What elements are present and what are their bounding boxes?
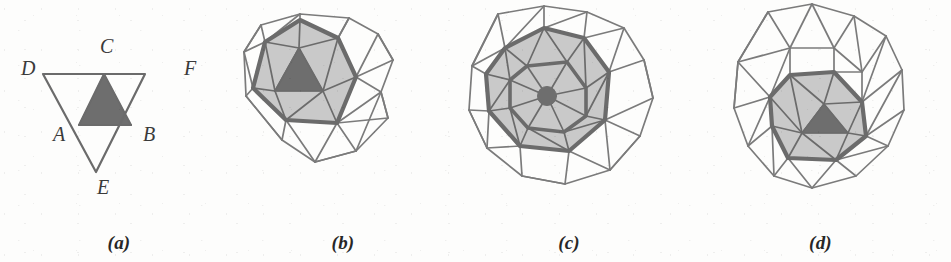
panel-caption-c: (c) <box>448 232 690 254</box>
panel-c-drawing <box>448 0 690 215</box>
vertex-label-d: D <box>21 58 35 78</box>
core-node-c <box>538 87 557 106</box>
vertex-label-f: F <box>184 58 196 78</box>
vertex-label-c: C <box>100 36 113 56</box>
panel-d: (d) <box>690 0 951 262</box>
panel-a: C D F A B E (a) <box>0 0 238 262</box>
panel-b-drawing <box>238 0 448 215</box>
panel-caption-b: (b) <box>238 232 448 254</box>
panel-d-drawing <box>690 0 951 215</box>
vertex-label-b: B <box>143 124 155 144</box>
panel-c: (c) <box>448 0 690 262</box>
panel-caption-a: (a) <box>0 232 238 254</box>
figure-container: C D F A B E (a) <box>0 0 951 262</box>
panel-a-drawing <box>0 0 238 215</box>
panel-caption-d: (d) <box>690 232 951 254</box>
vertex-label-e: E <box>97 177 109 197</box>
vertex-label-a: A <box>53 124 65 144</box>
panel-b: (b) <box>238 0 448 262</box>
